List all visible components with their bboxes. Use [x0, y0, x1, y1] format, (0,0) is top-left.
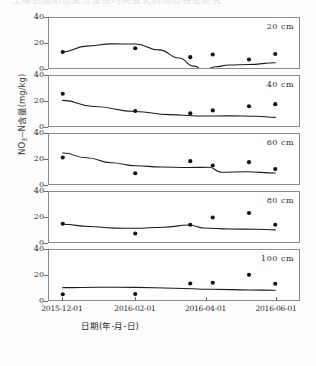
- panel-depth-label: 20 cm: [267, 22, 294, 31]
- x-tick-mark: [135, 297, 136, 301]
- panel-plot-area: [49, 76, 299, 126]
- x-tick-label: 2016-04-01: [185, 304, 226, 313]
- data-point: [273, 52, 277, 56]
- cropped-header-text: 土壤剖面硝态氮含量随时间变化的动态特征研究: [0, 0, 316, 11]
- data-point: [273, 167, 277, 171]
- y-axis-label-pre: NO: [17, 142, 27, 155]
- y-tick-label: 20: [0, 96, 44, 105]
- data-point: [61, 155, 65, 159]
- y-tick-mark: [44, 301, 48, 302]
- y-axis-label-sub: 3: [21, 138, 29, 142]
- fitted-curve: [63, 100, 276, 117]
- y-tick-label: 20: [0, 154, 44, 163]
- y-tick-mark: [44, 69, 48, 70]
- y-tick-label: 40: [0, 128, 44, 137]
- data-point: [273, 223, 277, 227]
- y-tick-label: 0: [0, 296, 44, 305]
- fitted-curve: [63, 153, 276, 173]
- data-point: [188, 281, 192, 285]
- data-point: [61, 92, 65, 96]
- y-tick-mark: [44, 191, 48, 192]
- fitted-curve: [63, 287, 276, 290]
- data-point: [211, 108, 215, 112]
- chart-panel-20-cm: 20 cm: [48, 17, 300, 69]
- y-tick-mark: [44, 159, 48, 160]
- data-point: [247, 211, 251, 215]
- data-point: [61, 292, 65, 296]
- y-tick-mark: [44, 17, 48, 18]
- data-point: [133, 171, 137, 175]
- data-point: [188, 55, 192, 59]
- data-point: [247, 273, 251, 277]
- x-axis-label: 日期(年-月-日): [0, 319, 268, 331]
- data-point: [247, 57, 251, 61]
- chart-panel-40-cm: 40 cm: [48, 75, 300, 127]
- y-tick-mark: [44, 43, 48, 44]
- data-point: [61, 222, 65, 226]
- x-tick-mark: [206, 297, 207, 301]
- chart-panel-80-cm: 80 cm: [48, 191, 300, 243]
- y-tick-mark: [44, 243, 48, 244]
- x-tick-mark: [62, 297, 63, 301]
- fitted-curve: [63, 224, 276, 230]
- fitted-curve: [63, 44, 276, 68]
- y-tick-label: 20: [0, 212, 44, 221]
- panel-plot-area: [49, 18, 299, 68]
- data-point: [273, 102, 277, 106]
- data-point: [188, 159, 192, 163]
- cropped-header-text-content: 土壤剖面硝态氮含量随时间变化的动态特征研究: [6, 0, 222, 6]
- data-point: [61, 50, 65, 54]
- chart-figure: NO3--N含量(mg/kg) 20 cm40 cm60 cm80 cm100 …: [0, 11, 316, 366]
- y-tick-mark: [44, 249, 48, 250]
- panel-depth-label: 100 cm: [261, 254, 294, 263]
- y-tick-label: 40: [0, 244, 44, 253]
- data-point: [247, 160, 251, 164]
- y-tick-mark: [44, 75, 48, 76]
- data-point: [211, 281, 215, 285]
- y-tick-mark: [44, 133, 48, 134]
- data-point: [188, 111, 192, 115]
- y-tick-mark: [44, 217, 48, 218]
- x-tick-label: 2015-12-01: [41, 304, 82, 313]
- y-tick-label: 40: [0, 186, 44, 195]
- data-point: [211, 163, 215, 167]
- x-tick-label: 2016-02-01: [114, 304, 155, 313]
- panel-depth-label: 40 cm: [267, 80, 294, 89]
- data-point: [211, 215, 215, 219]
- chart-panel-100-cm: 100 cm: [48, 249, 300, 301]
- data-point: [211, 52, 215, 56]
- y-tick-mark: [44, 127, 48, 128]
- panel-plot-area: [49, 134, 299, 184]
- data-point: [133, 109, 137, 113]
- y-tick-label: 40: [0, 12, 44, 21]
- data-point: [273, 282, 277, 286]
- x-tick-label: 2016-06-01: [255, 304, 296, 313]
- data-point: [133, 46, 137, 50]
- y-tick-mark: [44, 185, 48, 186]
- data-point: [133, 292, 137, 296]
- y-tick-label: 40: [0, 70, 44, 79]
- y-tick-label: 20: [0, 270, 44, 279]
- data-point: [247, 104, 251, 108]
- y-tick-label: 20: [0, 38, 44, 47]
- data-point: [133, 231, 137, 235]
- x-tick-mark: [276, 297, 277, 301]
- data-point: [188, 223, 192, 227]
- panel-depth-label: 60 cm: [267, 138, 294, 147]
- panel-depth-label: 80 cm: [267, 196, 294, 205]
- y-tick-mark: [44, 275, 48, 276]
- chart-panel-60-cm: 60 cm: [48, 133, 300, 185]
- y-tick-mark: [44, 101, 48, 102]
- panel-plot-area: [49, 192, 299, 242]
